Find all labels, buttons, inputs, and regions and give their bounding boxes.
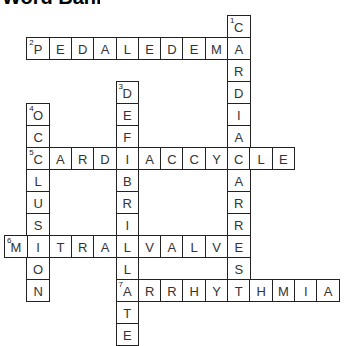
crossword-cell[interactable]: V [138,235,162,258]
crossword-cell[interactable]: A [49,147,73,170]
crossword-cell[interactable]: A [227,169,251,192]
crossword-cell[interactable]: I [116,213,140,236]
crossword-cell[interactable]: D [93,147,117,170]
cell-letter: I [27,240,49,255]
crossword-cell[interactable]: A [227,37,251,60]
crossword-cell[interactable]: C [182,147,206,170]
cell-letter: C [161,152,183,167]
crossword-cell[interactable]: F [116,125,140,148]
crossword-cell[interactable]: E [272,147,296,170]
crossword-cell[interactable]: C [26,125,50,148]
crossword-cell[interactable]: O [26,257,50,280]
cell-letter: M [273,284,295,299]
crossword-cell[interactable]: Y [205,279,229,302]
crossword-cell[interactable]: E [138,37,162,60]
crossword-cell[interactable]: Y [205,147,229,170]
cell-letter: E [139,42,161,57]
crossword-cell[interactable]: E [49,37,73,60]
crossword-cell[interactable]: 1C [227,15,251,38]
crossword-cell[interactable]: D [227,81,251,104]
crossword-cell[interactable]: D [71,37,95,60]
crossword-cell[interactable]: H [182,279,206,302]
crossword-cell[interactable]: E [227,235,251,258]
cell-letter: A [94,42,116,57]
crossword-cell[interactable]: A [227,125,251,148]
cell-letter: L [27,174,49,189]
crossword-cell[interactable]: T [49,235,73,258]
cell-letter: R [228,64,250,79]
cell-letter: R [72,240,94,255]
cell-letter: I [295,284,317,299]
cell-letter: S [27,218,49,233]
crossword-cell[interactable]: R [227,59,251,82]
crossword-cell[interactable]: A [93,235,117,258]
crossword-cell[interactable]: A [93,37,117,60]
crossword-cell[interactable]: L [116,37,140,60]
crossword-cell[interactable]: 5C [26,147,50,170]
cell-letter: A [317,284,339,299]
cell-letter: S [228,262,250,277]
cell-letter: A [50,152,72,167]
cell-letter: H [250,284,272,299]
cell-letter: B [117,174,139,189]
crossword-cell[interactable]: 6M [4,235,28,258]
cell-letter: A [228,130,250,145]
cell-letter: D [117,86,139,101]
crossword-cell[interactable]: 4O [26,103,50,126]
cell-letter: C [27,130,49,145]
crossword-cell[interactable]: L [116,257,140,280]
cell-letter: H [183,284,205,299]
crossword-cell[interactable]: U [26,191,50,214]
cell-letter: M [206,42,228,57]
crossword-cell[interactable]: A [160,235,184,258]
crossword-cell[interactable]: I [294,279,318,302]
crossword-cell[interactable]: R [227,191,251,214]
crossword-cell[interactable]: R [160,279,184,302]
cell-letter: D [228,86,250,101]
crossword-cell[interactable]: L [26,169,50,192]
crossword-cell[interactable]: B [116,169,140,192]
crossword-cell[interactable]: R [71,235,95,258]
crossword-cell[interactable]: T [116,301,140,324]
crossword-cell[interactable]: 3D [116,81,140,104]
crossword-cell[interactable]: L [182,235,206,258]
crossword-cell[interactable]: E [116,103,140,126]
crossword-cell[interactable]: C [160,147,184,170]
crossword-cell[interactable]: S [26,213,50,236]
crossword-cell[interactable]: R [138,279,162,302]
crossword-cell[interactable]: E [116,323,140,346]
cell-letter: V [206,240,228,255]
crossword-cell[interactable]: I [116,147,140,170]
crossword-cell[interactable]: V [205,235,229,258]
cell-letter: O [27,262,49,277]
crossword-cell[interactable]: N [26,279,50,302]
crossword-cell[interactable]: L [116,235,140,258]
crossword-cell[interactable]: M [205,37,229,60]
cell-letter: A [228,174,250,189]
crossword-cell[interactable]: D [160,37,184,60]
cell-letter: Y [206,152,228,167]
crossword-cell[interactable]: S [227,257,251,280]
crossword-cell[interactable]: R [71,147,95,170]
cell-letter: R [228,218,250,233]
crossword-cell[interactable]: I [26,235,50,258]
cell-letter: R [161,284,183,299]
crossword-cell[interactable]: 7A [116,279,140,302]
crossword-cell[interactable]: A [138,147,162,170]
crossword-cell[interactable]: H [249,279,273,302]
cell-letter: F [117,130,139,145]
crossword-cell[interactable]: I [227,103,251,126]
crossword-cell[interactable]: T [227,279,251,302]
crossword-cell[interactable]: A [316,279,340,302]
crossword-cell[interactable]: C [227,147,251,170]
crossword-cell[interactable]: L [249,147,273,170]
crossword-cell[interactable]: R [116,191,140,214]
crossword-cell[interactable]: R [227,213,251,236]
crossword-cell[interactable]: M [272,279,296,302]
crossword-cell[interactable]: 2P [26,37,50,60]
cell-letter: T [117,306,139,321]
crossword-cell[interactable]: E [182,37,206,60]
cell-letter: M [5,240,27,255]
cell-letter: R [139,284,161,299]
